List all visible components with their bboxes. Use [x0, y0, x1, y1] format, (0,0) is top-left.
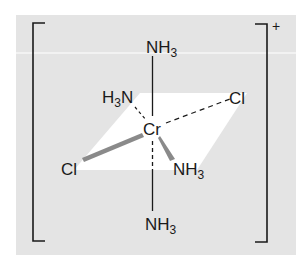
metal-center-label: Cr — [143, 120, 161, 139]
ligand-back-right-label: Cl — [229, 89, 245, 108]
ligand-front-left-label: Cl — [61, 160, 77, 179]
complex-ion-diagram: + NH3 H3N Cl Cr Cl NH3 NH3 — [0, 0, 307, 267]
charge-label: + — [272, 18, 280, 34]
